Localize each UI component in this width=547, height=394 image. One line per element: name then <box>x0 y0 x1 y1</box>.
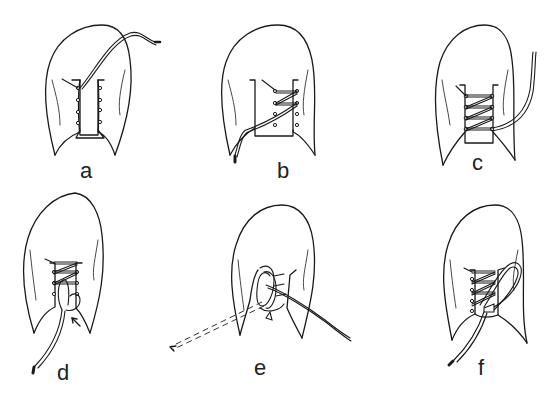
panel-e: e <box>150 190 400 394</box>
panel-label-b: b <box>277 160 289 182</box>
panel-d: d <box>0 190 160 394</box>
panel-c: c <box>360 0 547 190</box>
panel-label-e: e <box>254 357 266 379</box>
shoe-drawing-e <box>150 190 400 394</box>
shoe-drawing-b <box>180 0 370 190</box>
panel-label-a: a <box>80 160 92 182</box>
shoe-drawing-a <box>0 0 190 190</box>
panel-f: f <box>380 190 547 394</box>
shoe-drawing-d <box>0 190 160 394</box>
panel-label-f: f <box>478 357 484 379</box>
panel-label-d: d <box>57 362 69 384</box>
shoe-drawing-c <box>360 0 547 190</box>
shoe-drawing-f <box>380 190 547 394</box>
panel-a: a <box>0 0 190 190</box>
panel-label-c: c <box>472 152 483 174</box>
panel-b: b <box>180 0 370 190</box>
